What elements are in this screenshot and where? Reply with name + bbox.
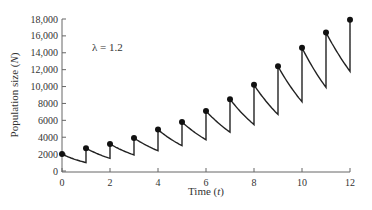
census-point xyxy=(83,145,89,151)
lambda-annotation: λ = 1.2 xyxy=(92,41,123,53)
y-tick-label: 10,000 xyxy=(31,81,59,92)
y-tick-label: 2000 xyxy=(38,149,58,160)
y-tick-label: 4000 xyxy=(38,132,58,143)
census-point xyxy=(299,45,305,51)
y-tick-label: 0 xyxy=(53,166,58,177)
census-point xyxy=(275,63,281,69)
x-tick-label: 8 xyxy=(252,177,257,188)
census-point xyxy=(227,96,233,102)
y-tick-label: 6000 xyxy=(38,115,58,126)
x-tick-label: 4 xyxy=(156,177,161,188)
x-tick-label: 0 xyxy=(60,177,65,188)
x-tick-label: 10 xyxy=(297,177,307,188)
population-growth-chart: 0200040006000800010,00012,00014,00016,00… xyxy=(0,0,372,210)
census-point xyxy=(155,127,161,133)
census-point xyxy=(59,151,65,157)
census-point xyxy=(131,135,137,141)
y-tick-label: 18,000 xyxy=(31,14,59,25)
y-tick-label: 12,000 xyxy=(31,64,59,75)
x-tick-label: 12 xyxy=(345,177,355,188)
x-axis-label: Time (t) xyxy=(188,185,224,198)
y-tick-label: 14,000 xyxy=(31,47,59,58)
census-point xyxy=(179,119,185,125)
census-point xyxy=(323,30,329,36)
census-point xyxy=(347,17,353,23)
y-tick-label: 16,000 xyxy=(31,30,59,41)
census-point xyxy=(251,82,257,88)
census-point xyxy=(203,108,209,114)
y-axis-label: Population size (N) xyxy=(8,52,21,137)
x-tick-label: 2 xyxy=(108,177,113,188)
census-point xyxy=(107,141,113,147)
y-tick-label: 8000 xyxy=(38,98,58,109)
axes: 0200040006000800010,00012,00014,00016,00… xyxy=(31,14,356,189)
